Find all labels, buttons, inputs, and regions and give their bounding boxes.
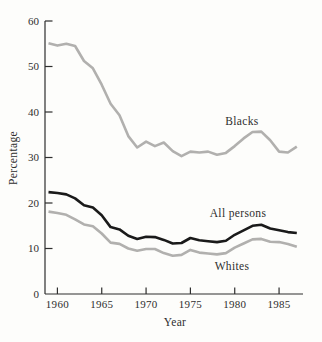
line-chart-canvas: 0102030405060196019651970197519801985 — [0, 0, 322, 342]
x-tick-label: 1965 — [90, 298, 113, 310]
y-tick-label: 30 — [28, 151, 40, 163]
y-axis-title: Percentage — [7, 131, 19, 185]
x-tick-label: 1970 — [134, 298, 157, 310]
series-label-whites: Whites — [215, 260, 250, 272]
series-label-blacks: Blacks — [225, 115, 258, 127]
series-label-all-persons: All persons — [210, 207, 267, 219]
x-tick-label: 1975 — [179, 298, 202, 310]
y-tick-label: 50 — [28, 60, 40, 72]
y-tick-label: 40 — [28, 106, 40, 118]
y-tick-label: 20 — [28, 197, 40, 209]
y-tick-label: 60 — [28, 15, 40, 27]
y-tick-label: 0 — [34, 288, 40, 300]
x-tick-label: 1980 — [223, 298, 246, 310]
series-line-blacks — [49, 43, 297, 156]
y-tick-label: 10 — [28, 242, 40, 254]
x-axis-title: Year — [164, 316, 187, 328]
x-tick-label: 1985 — [267, 298, 290, 310]
x-tick-label: 1960 — [46, 298, 69, 310]
poverty-rate-figure: 0102030405060196019651970197519801985 Pe… — [0, 0, 322, 342]
